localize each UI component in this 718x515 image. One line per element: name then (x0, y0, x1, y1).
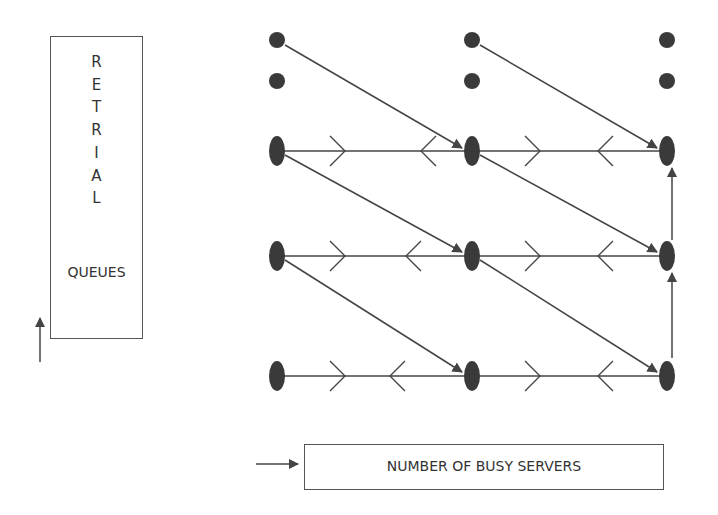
diagonal-arrows (285, 45, 657, 372)
node-dot (659, 73, 675, 89)
node-state (269, 136, 285, 166)
node-dot (269, 32, 285, 48)
node-state (464, 361, 480, 391)
letter: T (51, 96, 142, 119)
node-state (659, 241, 675, 271)
node-state (659, 361, 675, 391)
node-state (464, 136, 480, 166)
letter: E (51, 74, 142, 97)
node-dot (464, 32, 480, 48)
retrial-vertical-label: R E T R I A L (51, 51, 142, 210)
node-dot (269, 73, 285, 89)
letter: I (51, 142, 142, 165)
letter: L (51, 187, 142, 210)
retrial-queues-box: R E T R I A L QUEUES (50, 36, 143, 339)
state-nodes (269, 32, 675, 391)
letter: R (51, 51, 142, 74)
node-state (464, 241, 480, 271)
letter: R (51, 119, 142, 142)
letter: A (51, 165, 142, 188)
node-state (269, 361, 285, 391)
busy-servers-label: NUMBER OF BUSY SERVERS (305, 458, 663, 474)
node-dot (464, 73, 480, 89)
node-state (269, 241, 285, 271)
queues-label: QUEUES (51, 264, 142, 280)
node-dot (659, 32, 675, 48)
node-state (659, 136, 675, 166)
busy-servers-box: NUMBER OF BUSY SERVERS (304, 444, 664, 490)
